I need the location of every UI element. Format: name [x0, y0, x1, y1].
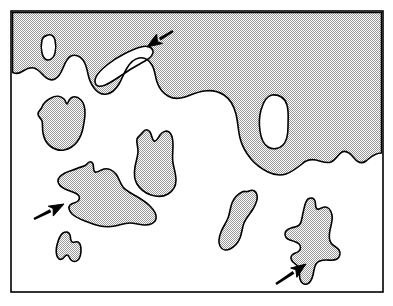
figure-root: [0, 0, 393, 306]
figure-canvas: [0, 0, 393, 306]
